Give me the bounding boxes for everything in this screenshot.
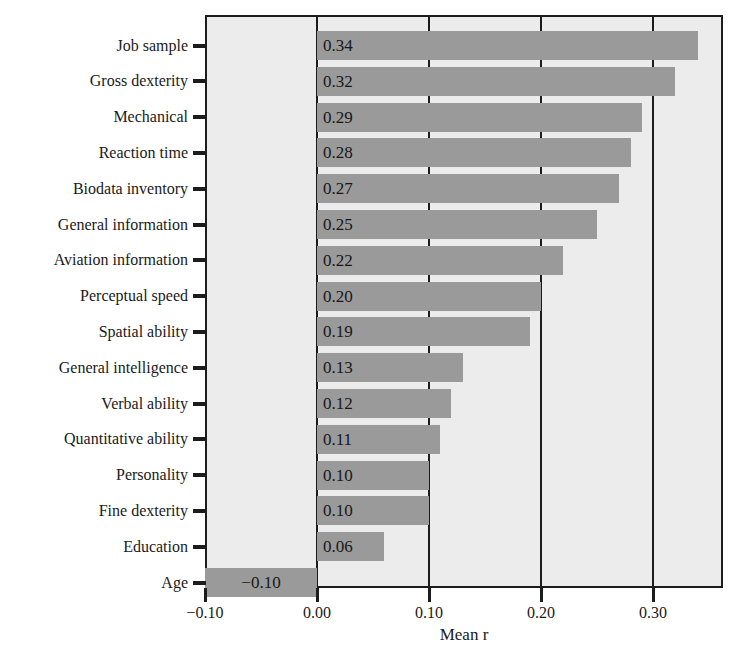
bar-value-label: 0.10: [323, 461, 353, 490]
x-axis-tick: [316, 588, 319, 602]
bar-row: 0.10: [205, 496, 723, 525]
bar-value-label: 0.11: [323, 425, 352, 454]
bar-value-label: 0.29: [323, 103, 353, 132]
bar: [317, 138, 631, 167]
y-axis-tick: [193, 223, 206, 227]
y-axis-label: Fine dexterity: [0, 502, 188, 520]
y-axis-tick: [193, 366, 206, 370]
x-axis-tick-label: 0.20: [501, 603, 581, 623]
y-axis-tick: [193, 115, 206, 119]
bar-row: 0.11: [205, 425, 723, 454]
y-axis-label: General intelligence: [0, 359, 188, 377]
y-axis-label: Education: [0, 538, 188, 556]
x-axis-tick: [652, 588, 655, 602]
y-axis-tick: [193, 187, 206, 191]
y-axis-tick: [193, 79, 206, 83]
y-axis-label: Spatial ability: [0, 323, 188, 341]
y-axis-label: Quantitative ability: [0, 430, 188, 448]
y-axis-tick: [193, 151, 206, 155]
y-axis-label: Aviation information: [0, 251, 188, 269]
bar-row: 0.25: [205, 210, 723, 239]
bar-row: 0.29: [205, 103, 723, 132]
y-axis-tick: [193, 330, 206, 334]
bar-value-label: 0.19: [323, 317, 353, 346]
bar-value-label: 0.25: [323, 210, 353, 239]
bars-layer: 0.340.320.290.280.270.250.220.200.190.13…: [205, 15, 723, 588]
bar: [317, 174, 619, 203]
y-axis-tick: [193, 473, 206, 477]
x-axis-tick: [204, 588, 207, 602]
bar-row: 0.34: [205, 31, 723, 60]
bar-row: 0.32: [205, 67, 723, 96]
bar-value-label: 0.06: [323, 532, 353, 561]
bar-row: 0.12: [205, 389, 723, 418]
bar-value-label: 0.13: [323, 353, 353, 382]
x-axis-tick-label: 0.10: [389, 603, 469, 623]
y-axis-label: Job sample: [0, 37, 188, 55]
x-axis-title: Mean r: [205, 625, 723, 645]
bar-value-label: 0.34: [323, 31, 353, 60]
bar-chart-figure: 0.340.320.290.280.270.250.220.200.190.13…: [0, 0, 729, 647]
y-axis-tick: [193, 44, 206, 48]
x-axis-tick-label: 0.30: [613, 603, 693, 623]
x-axis-tick-label: −0.10: [165, 603, 245, 623]
bar-value-label: −0.10: [205, 568, 317, 597]
y-axis-label: Age: [0, 574, 188, 592]
bar-row: 0.22: [205, 246, 723, 275]
bar-value-label: 0.32: [323, 67, 353, 96]
y-axis-label: Verbal ability: [0, 395, 188, 413]
bar: [317, 31, 698, 60]
bar: [317, 67, 675, 96]
bar-row: 0.20: [205, 282, 723, 311]
bar-value-label: 0.27: [323, 174, 353, 203]
bar-value-label: 0.12: [323, 389, 353, 418]
bar-row: −0.10: [205, 568, 723, 597]
x-axis-tick: [540, 588, 543, 602]
bar-value-label: 0.22: [323, 246, 353, 275]
y-axis-label: Perceptual speed: [0, 287, 188, 305]
y-axis-tick: [193, 545, 206, 549]
y-axis-tick: [193, 509, 206, 513]
y-axis-label: Reaction time: [0, 144, 188, 162]
bar: [317, 210, 597, 239]
y-axis-tick: [193, 437, 206, 441]
bar-row: 0.10: [205, 461, 723, 490]
y-axis-label: Mechanical: [0, 108, 188, 126]
bar-row: 0.13: [205, 353, 723, 382]
x-axis-tick: [428, 588, 431, 602]
y-axis-tick: [193, 294, 206, 298]
bar-value-label: 0.20: [323, 282, 353, 311]
bar-row: 0.27: [205, 174, 723, 203]
y-axis-tick: [193, 258, 206, 262]
y-axis-label: Personality: [0, 466, 188, 484]
bar-value-label: 0.28: [323, 138, 353, 167]
y-axis-tick: [193, 402, 206, 406]
y-axis-tick: [193, 581, 206, 585]
y-axis-label: General information: [0, 216, 188, 234]
bar-row: 0.28: [205, 138, 723, 167]
bar-row: 0.19: [205, 317, 723, 346]
bar: [317, 103, 642, 132]
x-axis-tick-label: 0.00: [277, 603, 357, 623]
bar-value-label: 0.10: [323, 496, 353, 525]
y-axis-category-labels: Job sampleGross dexterityMechanicalReact…: [0, 15, 188, 588]
bar: [317, 246, 563, 275]
y-axis-label: Biodata inventory: [0, 180, 188, 198]
y-axis-label: Gross dexterity: [0, 72, 188, 90]
bar-row: 0.06: [205, 532, 723, 561]
